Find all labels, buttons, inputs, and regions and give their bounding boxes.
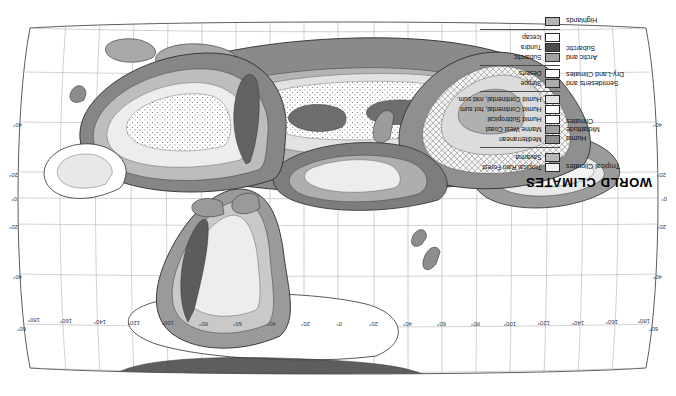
lon-label-80e: 80° [199,321,208,327]
lon-label-120w: 120° [538,320,550,326]
lon-label-20w: 20° [369,321,378,327]
legend-item[interactable]: Mediterranean [457,136,560,145]
lat-label-right-60: 60° [17,326,26,332]
lon-label-160e: 160° [60,318,72,324]
lon-label-40e: 40° [267,321,276,327]
legend-item[interactable]: Humid Continental, mid sum. [457,95,560,104]
lon-label-20e: 20° [301,321,310,327]
legend-item[interactable]: Humid Subtropical [457,115,560,124]
lon-label-60w: 60° [437,321,446,327]
legend-label: Tundra [521,44,542,52]
legend-items-humid-midlatitude: Mediterranean Marine West Coast Humid Su… [457,94,560,144]
lon-label-140e: 140° [94,319,106,325]
legend-label: Mediterranean [499,136,542,144]
lat-label-right-40s: 40° [13,122,22,128]
legend-group-heading-humid-midlatitude-line-0: Humid [566,133,652,142]
legend-label: Savanna [515,154,541,162]
lat-label-left-40: 40° [653,274,662,280]
lon-label-100e: 100° [162,320,174,326]
legend-label: Subarctic [514,54,542,62]
legend-group-heading-humid-midlatitude-line-1: Midlatitude [566,125,652,134]
map-legend: WORLD CLIMATES Tropical Climates Tropica… [408,30,652,190]
legend-group-heading-dry-land-line-1: Dry-Land Climates [566,70,652,79]
legend-swatch-humid-subtropical [545,115,560,125]
legend-group-heading-arctic-line-0: Arctic and [566,52,652,61]
legend-items-arctic: Subarctic Tundra Icecap [514,32,560,62]
legend-group-heading-arctic: Arctic and Subarctic [566,44,652,61]
legend-swatch-icecap [545,33,560,43]
legend-swatch-savanna [545,153,560,163]
legend-swatch-humid-continental-mid-summer [545,95,560,105]
legend-divider-4 [480,29,560,30]
legend-label: Humid Continental, hot sum. [458,106,541,114]
legend-divider-1 [480,147,560,148]
legend-group-heading-tropical: Tropical Climates [566,161,652,170]
legend-swatch-mediterranean [545,135,560,145]
legend-swatch-subarctic [545,53,560,63]
legend-group-heading-dry-land-line-0: Semideserts and [566,78,652,87]
legend-label: Humid Continental, mid sum. [457,96,542,104]
legend-divider-3 [480,65,560,66]
lon-label-60e: 60° [233,321,242,327]
rotated-figure-container: 180° 160° 140° 120° 100° 80° 60° 40° 20°… [0,0,676,396]
legend-items-dry-land: Steppe Deserts [519,68,560,88]
legend-label: Icecap [522,34,541,42]
legend-item[interactable]: Humid Continental, hot sum. [457,105,560,114]
legend-item[interactable]: Steppe [519,80,560,89]
figure-root: 180° 160° 140° 120° 100° 80° 60° 40° 20°… [0,0,676,396]
legend-swatch-tropical-rain-forest [545,163,560,173]
legend-swatch-deserts [545,69,560,79]
legend-item[interactable]: Tropical Rain Forest [482,164,560,173]
legend-group-heading-humid-midlatitude: Humid Midlatitude Climates [566,116,652,142]
lon-label-100w: 100° [504,321,516,327]
legend-title: WORLD CLIMATES [525,175,652,190]
legend-items-tropical: Tropical Rain Forest Savanna [482,152,560,172]
legend-group-heading-highlands: Highlands [566,15,652,24]
legend-swatch-humid-continental-hot-summer [545,105,560,115]
lat-label-right-0: 0° [11,196,17,202]
legend-label: Deserts [519,70,542,78]
lon-label-120e: 120° [128,320,140,326]
legend-swatch-tundra [545,43,560,53]
lon-label-160w: 160° [606,319,618,325]
legend-group-heading-arctic-line-1: Subarctic [566,44,652,53]
legend-divider-2 [480,91,560,92]
lon-label-180e: 180° [28,317,40,323]
legend-label: Humid Subtropical [488,116,542,124]
legend-items-highlands [542,16,561,26]
legend-item[interactable]: Deserts [519,69,560,78]
lon-label-80w: 80° [471,321,480,327]
lat-label-left-20s: 20° [657,172,666,178]
lat-label-left-20: 20° [657,224,666,230]
legend-swatch-marine-west-coast [545,125,560,135]
legend-label: Marine West Coast [486,126,542,134]
legend-label: Steppe [521,80,542,88]
legend-group-heading-highlands-line-0: Highlands [566,15,652,24]
legend-group-heading-humid-midlatitude-line-2: Climates [566,116,652,125]
legend-swatch-steppe [545,79,560,89]
legend-group-heading-dry-land: Semideserts and Dry-Land Climates [566,70,652,87]
lat-label-left-60: 60° [649,326,658,332]
legend-item[interactable]: Icecap [514,33,560,42]
legend-item[interactable]: Tundra [514,43,560,52]
legend-swatch-highlands [545,17,560,27]
lon-label-140w: 140° [572,320,584,326]
legend-item[interactable]: Subarctic [514,54,560,63]
legend-group-heading-tropical-line-0: Tropical Climates [566,161,652,170]
lat-label-left-40s: 40° [653,122,662,128]
lat-label-right-20: 20° [9,224,18,230]
lat-label-left-0: 0° [661,196,667,202]
lat-label-right-40: 40° [13,274,22,280]
lat-label-right-20s: 20° [9,172,18,178]
legend-label: Tropical Rain Forest [482,164,541,172]
legend-item[interactable]: Marine West Coast [457,125,560,134]
legend-item[interactable]: Savanna [482,153,560,162]
lon-label-40w: 40° [403,321,412,327]
legend-item[interactable] [542,18,561,27]
lon-label-180w: 180° [638,318,650,324]
lon-label-0: 0° [336,321,342,327]
